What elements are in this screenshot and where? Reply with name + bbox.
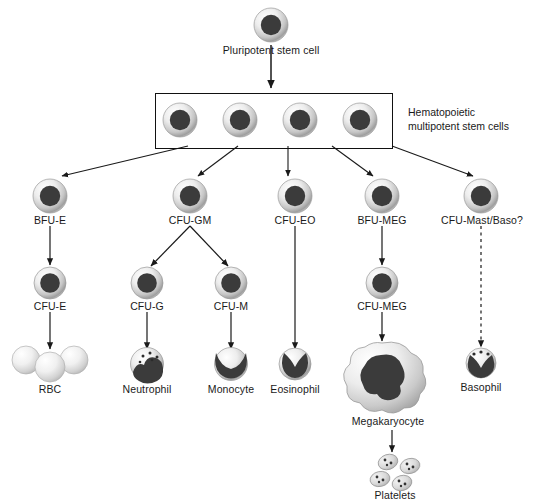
label-cfu-mast-baso: CFU-Mast/Baso? bbox=[441, 214, 523, 226]
label-hematopoietic-multipotent-stem-cells: Hematopoietic multipotent stem cells bbox=[408, 106, 509, 133]
hematopoiesis-diagram: Pluripotent stem cell Hematopoietic mult… bbox=[0, 0, 533, 501]
label-cfu-gm: CFU-GM bbox=[169, 214, 212, 226]
cell-monocyte bbox=[215, 348, 248, 381]
label-megakaryocyte: Megakaryocyte bbox=[352, 415, 425, 427]
arrow-box-to-bfu-meg bbox=[332, 146, 373, 176]
cell-eosinophil bbox=[279, 348, 311, 380]
arrow-cfu-gm-to-cfu-m bbox=[190, 226, 228, 266]
cell-megakaryocyte bbox=[344, 342, 426, 413]
label-hematopoietic-line1: Hematopoietic bbox=[408, 106, 509, 120]
label-cfu-g: CFU-G bbox=[130, 300, 164, 312]
cell-bfu-e bbox=[33, 179, 67, 213]
arrow-box-to-bfu-e bbox=[62, 146, 188, 176]
label-monocyte: Monocyte bbox=[208, 383, 254, 395]
label-cfu-meg: CFU-MEG bbox=[357, 300, 407, 312]
cell-cfu-mast-baso bbox=[464, 179, 498, 213]
label-eosinophil: Eosinophil bbox=[270, 383, 319, 395]
cell-cfu-g bbox=[131, 267, 163, 299]
multipotent-stem-cell-box bbox=[155, 93, 393, 149]
cell-pluripotent-stem-cell bbox=[254, 8, 288, 42]
label-rbc: RBC bbox=[39, 383, 61, 395]
arrow-cfu-gm-to-cfu-g bbox=[151, 226, 190, 266]
label-basophil: Basophil bbox=[460, 381, 501, 393]
cell-cfu-meg bbox=[366, 267, 398, 299]
label-cfu-eo: CFU-EO bbox=[275, 214, 316, 226]
cell-cfu-gm bbox=[173, 179, 207, 213]
label-neutrophil: Neutrophil bbox=[123, 383, 172, 395]
cell-cfu-m bbox=[215, 267, 247, 299]
label-bfu-e: BFU-E bbox=[34, 214, 66, 226]
cell-rbc bbox=[12, 346, 88, 382]
cell-cfu-e bbox=[34, 267, 66, 299]
label-cfu-m: CFU-M bbox=[214, 300, 248, 312]
label-cfu-e: CFU-E bbox=[34, 300, 67, 312]
label-bfu-meg: BFU-MEG bbox=[357, 214, 406, 226]
arrow-box-to-cfu-mast-baso bbox=[392, 146, 473, 176]
cell-basophil bbox=[466, 348, 496, 378]
arrow-box-to-cfu-gm bbox=[198, 146, 238, 176]
connector-layer bbox=[0, 0, 533, 501]
label-hematopoietic-line2: multipotent stem cells bbox=[408, 120, 509, 134]
cell-bfu-meg bbox=[365, 179, 399, 213]
cell-platelets bbox=[369, 452, 422, 493]
cell-neutrophil bbox=[131, 348, 164, 384]
cell-cfu-eo bbox=[278, 179, 312, 213]
label-pluripotent-stem-cell: Pluripotent stem cell bbox=[223, 44, 320, 56]
label-platelets: Platelets bbox=[374, 489, 415, 501]
